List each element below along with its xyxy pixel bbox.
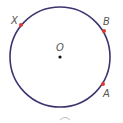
- circle-diagram: O X B A: [0, 0, 123, 123]
- point-b: [102, 29, 106, 33]
- point-x: [19, 23, 23, 27]
- label-x: X: [10, 15, 19, 26]
- label-o: O: [56, 42, 64, 53]
- partial-glyph-bottom: [60, 118, 70, 121]
- center-point-o: [58, 55, 61, 58]
- point-a: [101, 82, 105, 86]
- label-a: A: [102, 88, 110, 99]
- label-b: B: [103, 16, 110, 27]
